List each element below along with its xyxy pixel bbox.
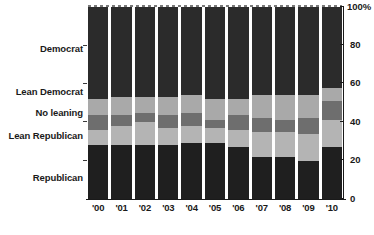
bar-10[interactable] (322, 7, 342, 199)
segment-democrat[interactable] (135, 7, 155, 97)
y-tick-mark (340, 159, 344, 160)
segment-democrat[interactable] (228, 7, 248, 99)
segment-lean-republican[interactable] (205, 128, 225, 143)
bar-08[interactable] (275, 7, 295, 199)
segment-no-leaning[interactable] (252, 118, 272, 131)
y-tick-label: 80 (350, 39, 361, 50)
bar-06[interactable] (228, 7, 248, 199)
segment-republican[interactable] (252, 157, 272, 199)
segment-democrat[interactable] (298, 7, 318, 95)
segment-democrat[interactable] (111, 7, 131, 97)
segment-lean-republican[interactable] (158, 128, 178, 145)
segment-lean-republican[interactable] (228, 130, 248, 147)
y-tick-mark (340, 198, 344, 199)
segment-lean-democrat[interactable] (228, 99, 248, 114)
segment-republican[interactable] (322, 147, 342, 199)
segment-democrat[interactable] (205, 7, 225, 99)
segment-lean-republican[interactable] (111, 126, 131, 145)
bar-02[interactable] (135, 7, 155, 199)
x-tick-label-09: '09 (298, 201, 318, 217)
y-tick-60: 60 (344, 77, 374, 88)
segment-no-leaning[interactable] (158, 115, 178, 128)
segment-lean-democrat[interactable] (275, 95, 295, 120)
y-tick-mark (340, 82, 344, 83)
y-tick-label: 40 (350, 116, 361, 127)
category-label-republican: Republican (33, 173, 83, 183)
segment-republican[interactable] (88, 145, 108, 199)
segment-lean-democrat[interactable] (322, 88, 342, 101)
segment-republican[interactable] (135, 145, 155, 199)
segment-no-leaning[interactable] (298, 118, 318, 133)
x-tick-label-00: '00 (88, 201, 108, 217)
segment-lean-republican[interactable] (275, 132, 295, 157)
x-axis-tick-group: '00'01'02'03'04'05'06'07'08'09'10 (88, 201, 342, 217)
left-tick-stub (83, 83, 87, 84)
bar-group (88, 7, 342, 199)
bar-05[interactable] (205, 7, 225, 199)
category-label-no-leaning: No leaning (35, 108, 83, 118)
segment-democrat[interactable] (275, 7, 295, 95)
segment-no-leaning[interactable] (135, 113, 155, 123)
segment-no-leaning[interactable] (111, 115, 131, 127)
segment-lean-democrat[interactable] (135, 97, 155, 112)
x-tick-label-02: '02 (135, 201, 155, 217)
segment-democrat[interactable] (88, 7, 108, 99)
segment-no-leaning[interactable] (88, 115, 108, 130)
segment-republican[interactable] (111, 145, 131, 199)
y-tick-mark (340, 6, 344, 7)
y-tick-label: 100% (347, 1, 371, 12)
segment-democrat[interactable] (158, 7, 178, 97)
segment-lean-republican[interactable] (88, 130, 108, 145)
segment-lean-democrat[interactable] (252, 95, 272, 118)
segment-lean-republican[interactable] (135, 122, 155, 145)
segment-lean-democrat[interactable] (111, 97, 131, 114)
y-tick-100: 100% (344, 1, 374, 12)
y-tick-80: 80 (344, 39, 374, 50)
bar-03[interactable] (158, 7, 178, 199)
category-label-democrat: Democrat (40, 44, 83, 54)
x-tick-label-10: '10 (322, 201, 342, 217)
segment-lean-republican[interactable] (252, 132, 272, 157)
segment-lean-democrat[interactable] (88, 99, 108, 114)
x-axis-line (86, 199, 346, 200)
bar-01[interactable] (111, 7, 131, 199)
segment-democrat[interactable] (181, 7, 201, 95)
bar-00[interactable] (88, 7, 108, 199)
y-tick-0: 0 (344, 193, 374, 204)
segment-lean-democrat[interactable] (181, 95, 201, 112)
segment-no-leaning[interactable] (275, 120, 295, 132)
segment-republican[interactable] (158, 145, 178, 199)
category-label-group: Democrat Lean Democrat No leaning Lean R… (0, 0, 86, 199)
x-tick-label-05: '05 (205, 201, 225, 217)
category-label-lean-democrat: Lean Democrat (16, 87, 83, 97)
x-tick-label-08: '08 (275, 201, 295, 217)
bar-07[interactable] (252, 7, 272, 199)
segment-republican[interactable] (205, 143, 225, 199)
segment-lean-republican[interactable] (298, 134, 318, 161)
bar-09[interactable] (298, 7, 318, 199)
segment-lean-republican[interactable] (181, 126, 201, 143)
left-tick-stub (83, 121, 87, 122)
segment-democrat[interactable] (322, 7, 342, 88)
segment-lean-democrat[interactable] (205, 99, 225, 120)
stacked-bar-chart: Democrat Lean Democrat No leaning Lean R… (0, 0, 374, 235)
segment-no-leaning[interactable] (205, 120, 225, 128)
segment-lean-democrat[interactable] (298, 95, 318, 118)
y-tick-label: 0 (350, 193, 355, 204)
y-tick-mark (340, 121, 344, 122)
segment-lean-republican[interactable] (322, 120, 342, 147)
segment-no-leaning[interactable] (322, 101, 342, 120)
segment-republican[interactable] (275, 157, 295, 199)
segment-lean-democrat[interactable] (158, 97, 178, 114)
segment-no-leaning[interactable] (228, 115, 248, 130)
x-tick-label-04: '04 (181, 201, 201, 217)
segment-republican[interactable] (181, 143, 201, 199)
bar-04[interactable] (181, 7, 201, 199)
segment-republican[interactable] (228, 147, 248, 199)
segment-democrat[interactable] (252, 7, 272, 95)
segment-republican[interactable] (298, 161, 318, 199)
y-tick-mark (340, 44, 344, 45)
segment-no-leaning[interactable] (181, 113, 201, 126)
x-tick-label-06: '06 (228, 201, 248, 217)
left-tick-stub (83, 45, 87, 46)
